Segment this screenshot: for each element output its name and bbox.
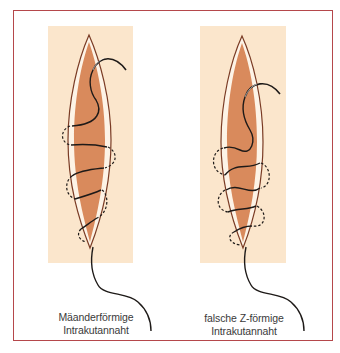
suture-diagram — [0, 0, 340, 353]
left-caption: Mäanderförmige Intrakutannaht — [31, 311, 161, 336]
right-panel — [200, 26, 304, 331]
left-caption-line1: Mäanderförmige — [31, 311, 161, 324]
right-caption-line2: Intrakutannaht — [179, 325, 309, 338]
left-caption-line2: Intrakutannaht — [31, 324, 161, 337]
right-caption: falsche Z-förmige Intrakutannaht — [179, 312, 309, 337]
left-panel — [48, 26, 151, 331]
right-caption-line1: falsche Z-förmige — [179, 312, 309, 325]
